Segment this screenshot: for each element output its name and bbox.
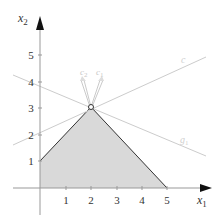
y-axis-arrow-icon xyxy=(36,16,44,30)
y-tick-label: 3 xyxy=(28,102,34,114)
y-tick-label: 5 xyxy=(28,49,34,61)
vector-c1 xyxy=(91,80,100,107)
y-tick-label: 1 xyxy=(28,155,34,167)
x-tick-label: 4 xyxy=(139,194,145,206)
x-tick-label: 3 xyxy=(114,194,120,206)
diagram-canvas: 1 2 3 4 5 1 2 3 4 5 x1 x2 xyxy=(0,0,216,224)
y-axis-label: x2 xyxy=(17,11,28,27)
objective-vectors xyxy=(81,80,103,107)
y-tick-label: 4 xyxy=(28,76,34,88)
y-tick-label: 2 xyxy=(28,129,34,141)
x-tick-label: 2 xyxy=(88,194,94,206)
optimal-vertex-marker xyxy=(89,105,94,110)
x-tick-label: 5 xyxy=(164,194,170,206)
vector-c2-label: c2 xyxy=(80,67,88,79)
feasible-region xyxy=(40,107,167,188)
line-c-label: c xyxy=(181,54,186,65)
x-axis-label: x1 xyxy=(196,193,207,209)
vector-c2 xyxy=(84,80,91,107)
vector-c1-shadow xyxy=(92,80,103,107)
x-axis-arrow-icon xyxy=(200,184,212,192)
vector-c1-label: c1 xyxy=(96,67,104,79)
line-g1-label: g1 xyxy=(180,134,189,147)
linear-program-diagram: 1 2 3 4 5 1 2 3 4 5 x1 x2 xyxy=(0,0,216,224)
vector-c2-shadow xyxy=(81,80,90,107)
x-tick-label: 1 xyxy=(63,194,69,206)
